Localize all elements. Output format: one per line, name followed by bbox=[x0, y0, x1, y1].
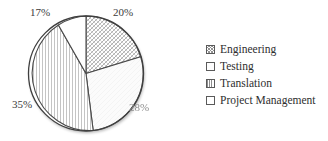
legend-item-project-management[interactable]: Project Management bbox=[206, 93, 315, 107]
legend-item-translation[interactable]: Translation bbox=[206, 76, 315, 90]
legend-label-engineering: Engineering bbox=[220, 43, 276, 56]
pie-chart-plot-area: 20% 28% 35% 17% bbox=[0, 0, 170, 141]
legend-item-engineering[interactable]: Engineering bbox=[206, 42, 315, 56]
legend-item-testing[interactable]: Testing bbox=[206, 59, 315, 73]
swatch-light-icon bbox=[206, 62, 215, 71]
legend-label-testing: Testing bbox=[220, 60, 254, 73]
legend-label-translation: Translation bbox=[220, 77, 272, 90]
pie-chart-svg bbox=[0, 0, 170, 141]
pie-label-engineering: 20% bbox=[113, 6, 133, 18]
legend-label-project-management: Project Management bbox=[220, 94, 315, 107]
pie-label-translation: 35% bbox=[12, 98, 32, 110]
swatch-white-icon bbox=[206, 96, 215, 105]
swatch-vertical-stripes-icon bbox=[206, 79, 215, 88]
swatch-crosshatch-icon bbox=[206, 45, 215, 54]
chart-legend: Engineering Testing Translation Project … bbox=[206, 42, 315, 107]
pie-label-testing: 28% bbox=[129, 101, 149, 113]
pie-chart-figure: 20% 28% 35% 17% Engineering Testing Tran… bbox=[0, 0, 328, 141]
pie-label-project-management: 17% bbox=[30, 6, 50, 18]
